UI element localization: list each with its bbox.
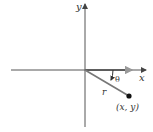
polar-diagram: y x θ r (x, y) [0, 0, 153, 132]
x-axis-label: x [139, 72, 145, 83]
radius-label: r [102, 87, 107, 97]
radius-segment [85, 70, 129, 96]
angle-label: θ [115, 75, 120, 84]
y-axis-label: y [75, 1, 82, 12]
angle-arc-icon [111, 70, 113, 80]
point-label: (x, y) [116, 102, 139, 112]
point-marker [126, 93, 131, 98]
